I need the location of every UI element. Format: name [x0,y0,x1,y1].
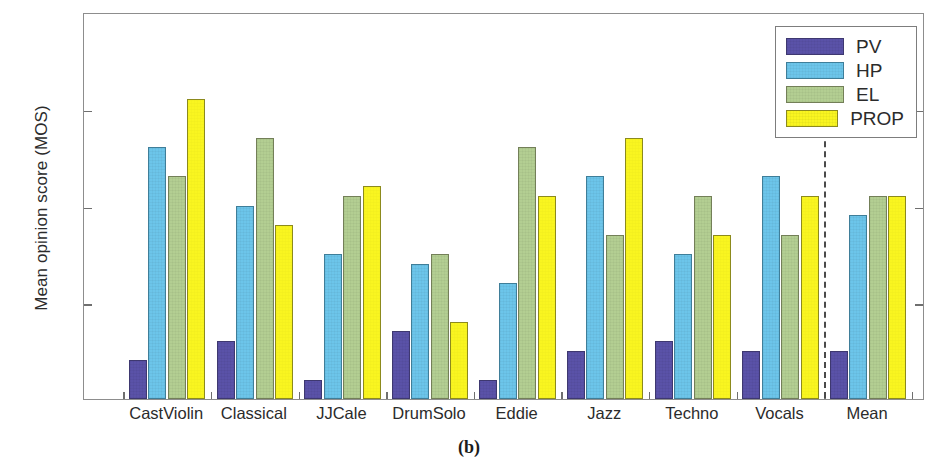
legend-item-pv[interactable]: PV [786,34,904,58]
bar-drumsolo-prop [450,322,468,399]
bar-mean-el [869,196,887,399]
x-tick-label-classical: Classical [221,404,287,423]
bar-eddie-el [518,147,536,399]
bar-mean-pv [830,351,848,399]
bar-vocals-hp [762,176,780,399]
x-tick-label-eddie: Eddie [496,404,538,423]
legend-item-el[interactable]: EL [786,82,904,106]
y-tick-mark-left-2 [84,304,92,305]
x-tick-label-jazz: Jazz [587,404,621,423]
x-tick-label-mean: Mean [846,404,887,423]
bar-jjcale-hp [324,254,342,399]
x-tick-mark-drumsolo [474,392,475,399]
bar-castviolin-prop [187,99,205,399]
legend-swatch-pv [786,38,844,55]
bar-vocals-el [781,235,799,399]
bar-castviolin-pv [129,360,147,399]
bar-mean-hp [849,215,867,399]
x-tick-mark-classical [299,392,300,399]
x-tick-label-drumsolo: DrumSolo [392,404,465,423]
bar-classical-hp [236,206,254,400]
bar-classical-prop [275,225,293,399]
bar-classical-pv [217,341,235,399]
x-tick-mark-jazz [649,392,650,399]
bar-classical-el [256,138,274,399]
figure-panel-b: Mean opinion score (MOS) 12345CastViolin… [0,0,938,468]
bar-jazz-el [606,235,624,399]
bar-techno-el [694,196,712,399]
bar-jjcale-prop [363,186,381,399]
x-tick-mark-origin [123,392,124,399]
bar-techno-hp [674,254,692,399]
bar-castviolin-hp [148,147,166,399]
bar-eddie-prop [538,196,556,399]
bar-jazz-prop [625,138,643,399]
x-tick-label-castviolin: CastViolin [129,404,203,423]
bar-jazz-hp [586,176,604,399]
x-tick-mark-castviolin [211,392,212,399]
x-tick-label-vocals: Vocals [755,404,804,423]
y-axis-title: Mean opinion score (MOS) [32,38,52,378]
bar-vocals-pv [742,351,760,399]
x-tick-mark-techno [737,392,738,399]
y-tick-mark-right-3 [915,208,923,209]
y-tick-mark-left-4 [84,111,92,112]
x-tick-mark-mean [912,392,913,399]
bar-techno-pv [655,341,673,399]
legend: PVHPELPROP [775,26,917,138]
bar-techno-prop [713,235,731,399]
legend-item-hp[interactable]: HP [786,58,904,82]
bar-jjcale-el [343,196,361,399]
x-tick-mark-jjcale [386,392,387,399]
legend-label-prop: PROP [850,109,904,128]
y-tick-mark-right-2 [915,304,923,305]
legend-label-pv: PV [856,37,881,56]
figure-caption: (b) [0,437,938,458]
bar-mean-prop [888,196,906,399]
bar-jazz-pv [567,351,585,399]
legend-label-hp: HP [856,61,882,80]
y-tick-mark-left-3 [84,208,92,209]
bar-vocals-prop [801,196,819,399]
legend-swatch-prop [786,110,838,127]
x-tick-label-jjcale: JJCale [316,404,366,423]
bar-castviolin-el [168,176,186,399]
legend-item-prop[interactable]: PROP [786,106,904,130]
legend-label-el: EL [856,85,879,104]
legend-swatch-hp [786,62,844,79]
bar-drumsolo-pv [392,331,410,399]
x-tick-label-techno: Techno [665,404,718,423]
bar-drumsolo-el [431,254,449,399]
bar-jjcale-pv [304,380,322,399]
bar-drumsolo-hp [411,264,429,399]
bar-eddie-hp [499,283,517,399]
x-tick-mark-eddie [561,392,562,399]
legend-swatch-el [786,86,844,103]
bar-eddie-pv [479,380,497,399]
